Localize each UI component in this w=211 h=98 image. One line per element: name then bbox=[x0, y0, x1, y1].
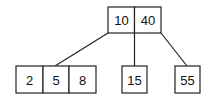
child-node-3: 55 bbox=[175, 66, 200, 93]
root-key-1: 10 bbox=[114, 13, 128, 28]
child-3-key-1: 55 bbox=[180, 73, 194, 88]
child-2-key-1: 15 bbox=[127, 73, 141, 88]
child-1-key-2: 5 bbox=[52, 73, 59, 88]
child-node-1: 2 5 8 bbox=[16, 66, 96, 93]
root-key-2: 40 bbox=[141, 13, 155, 28]
b-tree-diagram: 10 40 2 5 8 15 55 bbox=[0, 0, 211, 98]
edge-root-to-child-3 bbox=[161, 33, 187, 66]
child-node-2: 15 bbox=[122, 66, 147, 93]
tree-svg: 10 40 2 5 8 15 55 bbox=[0, 0, 211, 98]
child-1-key-3: 8 bbox=[79, 73, 86, 88]
root-node: 10 40 bbox=[108, 7, 161, 33]
edge-root-to-child-1 bbox=[55, 33, 108, 66]
child-1-key-1: 2 bbox=[26, 73, 33, 88]
